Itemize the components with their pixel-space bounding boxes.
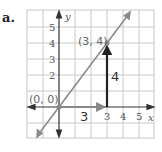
run-label: 3 [80,109,88,124]
y-tick-4: 4 [49,38,55,49]
x-tick-3: 3 [104,111,110,122]
point-label-origin: (0, 0) [29,93,59,106]
rise-label: 4 [111,69,119,84]
y-axis-label: y [64,11,71,22]
coordinate-graph: a. y x 5 4 3 2 3 4 5 (0, 0) (3, 4) 3 4 [0,0,162,152]
rise-arrow [104,47,111,107]
y-axis [57,11,62,137]
part-label: a. [2,10,15,25]
y-tick-3: 3 [49,54,55,65]
point-label-3-4: (3, 4) [78,35,108,48]
y-tick-5: 5 [49,22,55,33]
grid [27,10,154,138]
y-tick-2: 2 [49,70,55,81]
x-tick-5: 5 [136,111,142,122]
x-axis-label: x [148,112,154,123]
x-tick-4: 4 [120,111,126,122]
